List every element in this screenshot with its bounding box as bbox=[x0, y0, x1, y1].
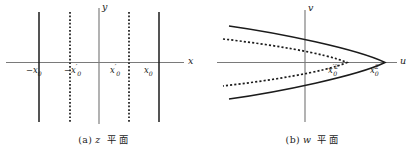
caption-plane-word: 平面 bbox=[104, 134, 131, 145]
tick-label-neg-x0: −x0 bbox=[26, 66, 42, 74]
x-axis-label: x bbox=[188, 56, 193, 66]
panel-w-plane: v u x′20 x20 (b)w平面 bbox=[209, 0, 418, 150]
tick-label-x0-prime-squared: x′20 bbox=[328, 66, 337, 74]
u-axis-label: u bbox=[400, 56, 406, 66]
subscript: 0 bbox=[77, 70, 81, 77]
subscript: 0 bbox=[116, 70, 120, 77]
subscript: 0 bbox=[38, 70, 42, 77]
caption-tag: (a) bbox=[78, 134, 92, 145]
minus-sign: − bbox=[26, 65, 33, 75]
caption-tag: (b) bbox=[286, 134, 300, 145]
subscript: 0 bbox=[375, 70, 379, 77]
z-plane-plot bbox=[0, 0, 209, 150]
tick-label-pos-x0-prime: x′0 bbox=[110, 66, 120, 74]
y-axis-label: y bbox=[102, 2, 107, 12]
panel-z-plane: y x −x0 −x′0 x′0 x0 (a)z平面 bbox=[0, 0, 209, 150]
caption-variable: w bbox=[300, 134, 314, 145]
subscript: 0 bbox=[149, 70, 153, 77]
minus-sign: − bbox=[64, 65, 71, 75]
tick-label-x0-squared: x20 bbox=[370, 66, 379, 74]
tick-label-neg-x0-prime: −x′0 bbox=[64, 66, 81, 74]
tick-label-pos-x0: x0 bbox=[144, 66, 153, 74]
caption-plane-word: 平面 bbox=[314, 134, 341, 145]
w-plane-plot bbox=[209, 0, 418, 150]
subscript: 0 bbox=[333, 70, 337, 77]
v-axis-label: v bbox=[308, 3, 313, 13]
caption-w-plane: (b)w平面 bbox=[209, 132, 418, 146]
caption-variable: z bbox=[92, 134, 103, 145]
caption-z-plane: (a)z平面 bbox=[0, 132, 209, 146]
figure-root: y x −x0 −x′0 x′0 x0 (a)z平面 bbox=[0, 0, 418, 150]
